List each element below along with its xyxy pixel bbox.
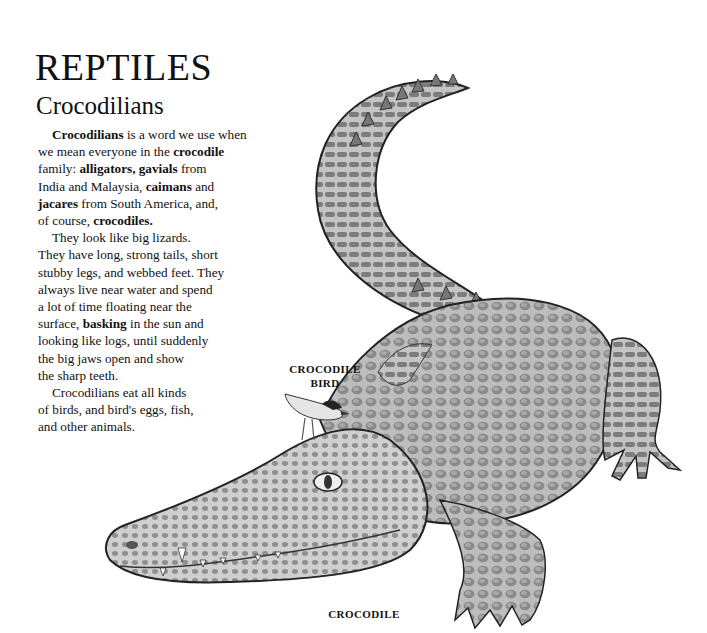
text-line: family: alligators, gavials from bbox=[38, 160, 268, 177]
eye bbox=[314, 473, 342, 491]
text-line: of birds, and bird's eggs, fish, bbox=[38, 401, 268, 418]
text-line: jacares from South America, and, bbox=[38, 195, 268, 212]
text-line: and other animals. bbox=[38, 418, 268, 435]
paragraph: Crocodilians eat all kindsof birds, and … bbox=[38, 384, 268, 436]
text-line: we mean everyone in the crocodile bbox=[38, 143, 268, 160]
page-title: REPTILES bbox=[35, 47, 212, 87]
nostril bbox=[126, 541, 138, 549]
text-line: They have long, strong tails, short bbox=[38, 246, 268, 263]
back-leg bbox=[603, 338, 680, 480]
text-line: a lot of time floating near the bbox=[38, 298, 268, 315]
text-line: Crocodilians is a word we use when bbox=[38, 126, 268, 143]
tail bbox=[316, 81, 520, 330]
front-leg bbox=[440, 500, 545, 628]
text-line: of course, crocodiles. bbox=[38, 212, 268, 229]
label-line-2: BIRD bbox=[285, 376, 365, 390]
text-line: They look like big lizards. bbox=[38, 229, 268, 246]
body-text: Crocodilians is a word we use whenwe mea… bbox=[38, 126, 268, 436]
text-line: always live near water and spend bbox=[38, 281, 268, 298]
text-line: the big jaws open and show bbox=[38, 350, 268, 367]
text-line: looking like logs, until suddenly bbox=[38, 332, 268, 349]
text-line: India and Malaysia, caimans and bbox=[38, 178, 268, 195]
crocodile-label: CROCODILE bbox=[324, 607, 404, 621]
paragraph: They look like big lizards.They have lon… bbox=[38, 229, 268, 384]
text-line: the sharp teeth. bbox=[38, 367, 268, 384]
text-line: stubby legs, and webbed feet. They bbox=[38, 264, 268, 281]
page-subtitle: Crocodilians bbox=[36, 92, 164, 120]
crocodile-bird-label: CROCODILE BIRD bbox=[285, 362, 365, 390]
text-line: surface, basking in the sun and bbox=[38, 315, 268, 332]
text-line: Crocodilians eat all kinds bbox=[38, 384, 268, 401]
label-line-1: CROCODILE bbox=[285, 362, 365, 376]
paragraph: Crocodilians is a word we use whenwe mea… bbox=[38, 126, 268, 229]
head bbox=[106, 429, 427, 582]
